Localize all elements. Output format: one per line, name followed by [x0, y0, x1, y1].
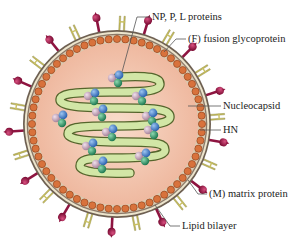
label-m-matrix-protein: (M) matrix protein	[209, 188, 288, 200]
label-np-p-l-proteins: NP, P, L proteins	[152, 11, 222, 23]
label-lipid-bilayer: Lipid bilayer	[182, 220, 237, 232]
label-f-fusion-glycoprotein: (F) fusion glycoprotein	[188, 33, 285, 45]
label-hn: HN	[223, 124, 238, 136]
label-nucleocapsid: Nucleocapsid	[223, 100, 280, 112]
virus-diagram: NP, P, L proteins (F) fusion glycoprotei…	[0, 0, 308, 244]
